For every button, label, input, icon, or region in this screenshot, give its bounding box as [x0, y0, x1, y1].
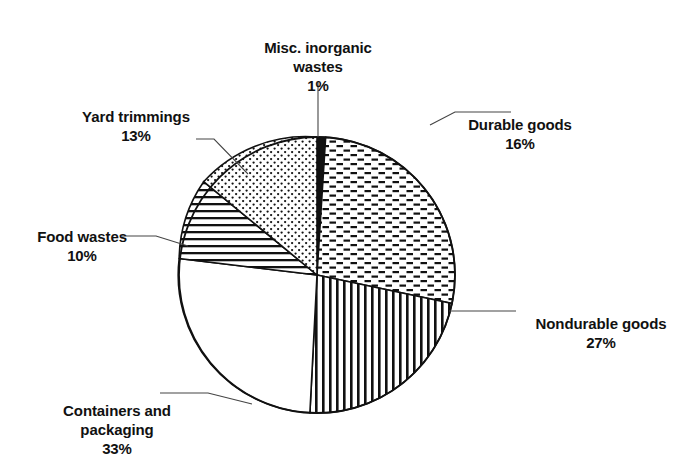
pie-chart: Misc. inorganic wastes 1% Durable goods … [0, 0, 691, 471]
slice-label-misc-inorganic-wastes-pct: 1% [230, 76, 406, 95]
slice-label-durable-goods-name: Durable goods [468, 116, 572, 133]
slice-label-misc-inorganic-wastes: Misc. inorganic wastes 1% [230, 19, 406, 114]
slice-label-nondurable-goods-name: Nondurable goods [536, 315, 667, 332]
slice-label-containers-and-packaging-pct: 33% [32, 439, 202, 458]
slice-label-containers-and-packaging-name: Containers and packaging [63, 402, 171, 438]
slice-label-food-wastes: Food wastes 10% [12, 208, 152, 284]
slice-label-food-wastes-pct: 10% [12, 246, 152, 265]
slice-label-nondurable-goods-pct: 27% [518, 333, 684, 352]
slice-label-misc-inorganic-wastes-name: Misc. inorganic wastes [264, 39, 372, 75]
slice-label-yard-trimmings: Yard trimmings 13% [58, 88, 214, 164]
slice-label-durable-goods-pct: 16% [440, 134, 600, 153]
slice-label-food-wastes-name: Food wastes [37, 228, 127, 245]
slice-label-containers-and-packaging: Containers and packaging 33% [32, 382, 202, 471]
slice-label-nondurable-goods: Nondurable goods 27% [518, 295, 684, 371]
slice-label-yard-trimmings-pct: 13% [58, 126, 214, 145]
slice-label-yard-trimmings-name: Yard trimmings [82, 108, 190, 125]
pie-slice-durable-goods[interactable] [317, 137, 455, 303]
slice-label-durable-goods: Durable goods 16% [440, 96, 600, 172]
